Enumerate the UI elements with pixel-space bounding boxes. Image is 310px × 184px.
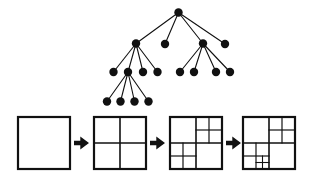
- tree-node-d: [221, 40, 229, 48]
- tree-node-group: [103, 8, 234, 105]
- quadtree-figure: [0, 0, 310, 184]
- tree-node-c: [199, 39, 207, 47]
- tree-node-b: [161, 40, 169, 48]
- subdivision-step-2-quad-split: [94, 117, 146, 169]
- tree-edge: [114, 44, 137, 73]
- tree-node-a4: [153, 68, 161, 76]
- tree-node-r: [174, 8, 182, 16]
- tree-node-c4: [226, 68, 234, 76]
- tree-edge: [203, 44, 216, 73]
- subdivision-step-3-two-quadrants-split: [170, 117, 222, 169]
- tree-node-b4: [144, 97, 152, 105]
- tree-node-a3: [139, 68, 147, 76]
- arrow-3-icon: [226, 137, 241, 150]
- tree-edge: [179, 13, 226, 45]
- arrow-2-icon: [150, 137, 165, 150]
- arrow-1-icon: [74, 137, 89, 150]
- tree-edge: [194, 44, 203, 73]
- tree-node-a1: [109, 68, 117, 76]
- tree-node-a2: [124, 68, 132, 76]
- tree-edge-group: [107, 13, 230, 102]
- tree-node-a: [132, 39, 140, 47]
- subdivision-step-1-undivided: [18, 117, 70, 169]
- tree-node-c1: [176, 68, 184, 76]
- tree-node-b1: [103, 97, 111, 105]
- tree-node-c2: [190, 68, 198, 76]
- subdivision-step-4-deep-split: [243, 117, 295, 169]
- figure-canvas: [0, 0, 310, 184]
- tree-node-c3: [212, 68, 220, 76]
- tree-edge: [107, 72, 128, 102]
- tree-edge: [180, 44, 203, 73]
- tree-edge: [179, 13, 204, 44]
- tree-node-b2: [116, 97, 124, 105]
- step-1-undivided-outer-border: [18, 117, 70, 169]
- tree-node-b3: [130, 97, 138, 105]
